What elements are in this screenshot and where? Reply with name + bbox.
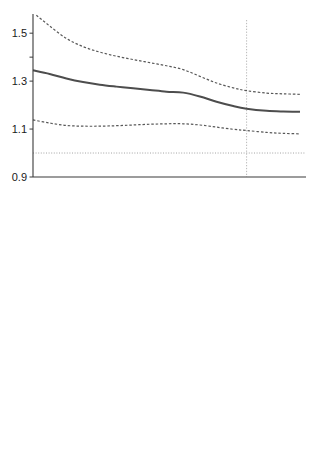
- y-tick-label: 1.1: [12, 123, 27, 135]
- y-tick-label: 1.3: [12, 75, 27, 87]
- plot-tick-labels: 0.91.11.31.5: [0, 0, 27, 183]
- chart-world: 0.91.11.31.5: [0, 0, 315, 215]
- y-tick-label: 1.5: [12, 27, 27, 39]
- series-line-upper-confidence-bound: [36, 15, 300, 94]
- panel-world: 0.91.11.31.5: [0, 0, 315, 215]
- panel-continents: [0, 215, 315, 449]
- plot-axes: [30, 14, 307, 177]
- series-line-world: [33, 70, 300, 111]
- plot-reference-lines: [33, 20, 306, 177]
- series-line-lower-confidence-bound: [33, 120, 300, 134]
- figure-container: 0.91.11.31.5: [0, 0, 315, 449]
- chart-continents: [0, 215, 315, 449]
- y-tick-label: 0.9: [12, 171, 27, 183]
- plot-series-lines: [33, 15, 300, 134]
